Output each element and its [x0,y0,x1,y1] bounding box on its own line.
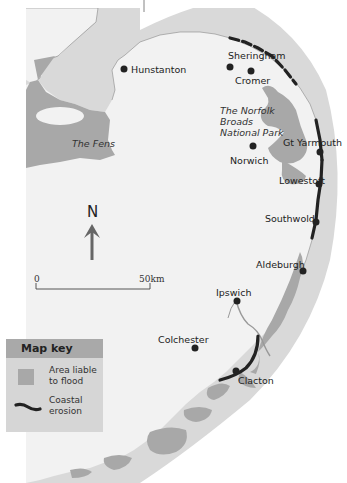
north-label: N [87,203,98,221]
label-gt-yarmouth: Gt Yarmouth [283,138,342,148]
town-dot-sheringham [227,64,234,71]
town-dot-gt-yarmouth [317,149,324,156]
scale-end-label: 50km [139,274,164,284]
map-key: Map key Area liable to flood Coastal ero… [6,339,103,432]
label-aldeburgh: Aldeburgh [256,260,305,270]
label-southwold: Southwold [265,214,315,224]
map: Hunstanton Sheringham Cromer Norwich Gt … [0,0,347,483]
town-dot-norwich [250,143,257,150]
label-cromer: Cromer [235,76,270,86]
key-erosion-line-2: erosion [49,406,83,417]
label-hunstanton: Hunstanton [131,65,186,75]
flood-area-swatch [18,369,34,385]
label-ipswich: Ipswich [216,288,251,298]
key-item-flood-label: Area liable to flood [49,365,97,387]
key-erosion-line-1: Coastal [49,395,83,406]
label-clacton: Clacton [238,376,274,386]
broads-line-1: The Norfolk [220,105,284,116]
fens-inner-island [36,107,84,125]
town-dot-cromer [248,68,255,75]
key-flood-line-1: Area liable [49,365,97,376]
key-flood-line-2: to flood [49,376,97,387]
broads-line-3: National Park [220,127,284,138]
town-dot-hunstanton [121,66,128,73]
coastal-erosion-line-icon [14,401,42,413]
key-item-erosion-label: Coastal erosion [49,395,83,417]
label-colchester: Colchester [158,335,209,345]
label-norfolk-broads: The Norfolk Broads National Park [220,105,284,138]
town-dot-colchester [192,345,199,352]
town-dot-clacton [233,368,240,375]
scale-start-label: 0 [34,274,40,284]
label-the-fens: The Fens [72,139,115,149]
label-lowestoft: Lowestoft [279,176,325,186]
broads-line-2: Broads [220,116,284,127]
town-dot-ipswich [234,298,241,305]
map-key-title: Map key [6,339,103,358]
label-norwich: Norwich [230,156,268,166]
label-sheringham: Sheringham [228,51,286,61]
